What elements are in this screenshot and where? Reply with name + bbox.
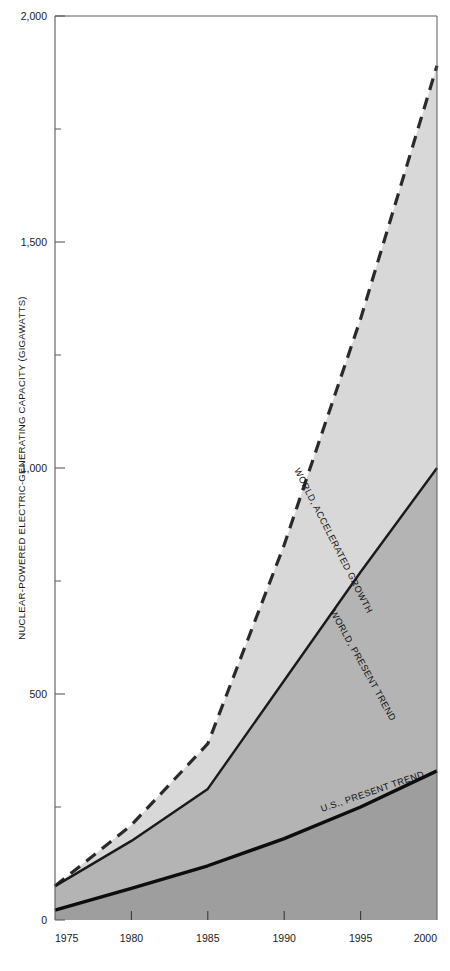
x-tick-label: 1980 — [120, 932, 144, 944]
y-tick-label: 0 — [41, 914, 47, 926]
x-tick-label: 1985 — [196, 932, 220, 944]
x-tick-label: 1995 — [349, 932, 373, 944]
chart-container: 05001,0001,5002,000 19751980198519901995… — [0, 0, 450, 971]
x-tick-label: 1975 — [55, 932, 79, 944]
chart-figure: 05001,0001,5002,000 19751980198519901995… — [0, 0, 450, 971]
y-tick-label: 2,000 — [21, 10, 47, 22]
x-axis-tick-labels: 197519801985199019952000 — [55, 932, 437, 944]
y-axis-title: NUCLEAR-POWERED ELECTRIC-GENERATING CAPA… — [16, 296, 27, 640]
y-tick-label: 500 — [29, 688, 47, 700]
y-tick-label: 1,500 — [21, 236, 47, 248]
x-tick-label: 1990 — [273, 932, 297, 944]
x-tick-label: 2000 — [414, 932, 438, 944]
